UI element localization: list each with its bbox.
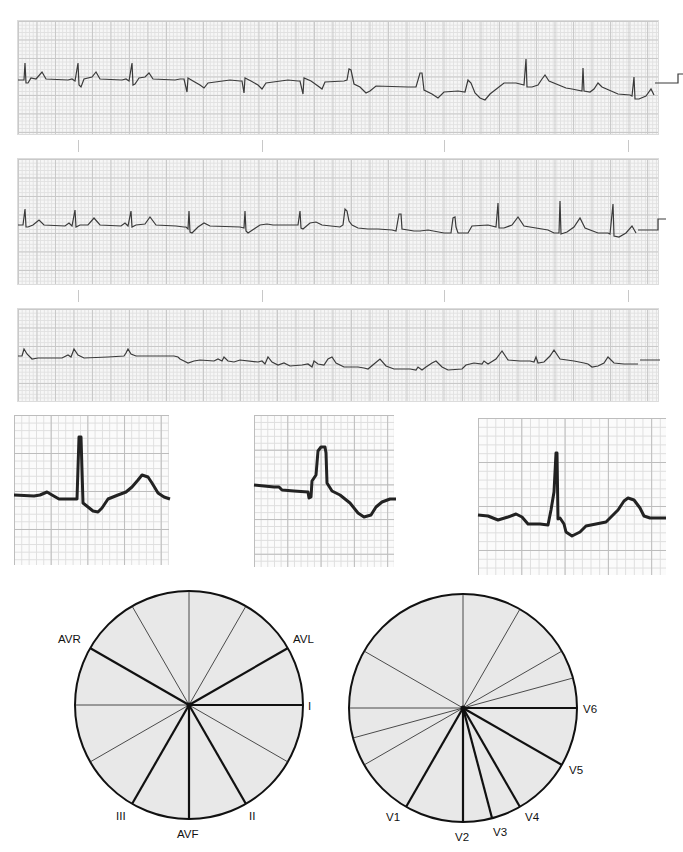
strip-marker: [262, 140, 263, 152]
label-iii: III: [116, 810, 126, 822]
ecg-complex-inset-1: [14, 415, 169, 565]
label-ii: II: [249, 810, 255, 822]
ecg-trace-strip-2: [18, 159, 658, 284]
detail-inset-2: [254, 415, 394, 567]
strip-marker: [78, 140, 79, 152]
strip-marker: [628, 290, 629, 302]
strip-marker: [78, 290, 79, 302]
label-v1: V1: [386, 811, 400, 823]
label-v2: V2: [455, 831, 469, 843]
lead-axis-diagrams: AVR AVL I III AVF II V6 V5 V4 V3 V2 V1: [0, 575, 683, 852]
rhythm-strip-3: [17, 308, 659, 402]
detail-inset-1: [14, 415, 169, 565]
ecg-trace-strip-3: [18, 309, 658, 401]
label-v4: V4: [525, 811, 540, 823]
frontal-plane-circle: AVR AVL I III AVF II: [58, 591, 314, 840]
detail-inset-3: [478, 418, 666, 575]
label-avr: AVR: [58, 633, 81, 645]
horizontal-plane-circle: V6 V5 V4 V3 V2 V1: [349, 594, 597, 843]
strip-marker: [444, 290, 445, 302]
strip-marker: [262, 290, 263, 302]
label-v3: V3: [493, 826, 507, 838]
label-i: I: [308, 700, 311, 712]
label-avl: AVL: [293, 633, 314, 645]
label-avf: AVF: [177, 828, 199, 840]
ecg-complex-inset-3: [478, 418, 666, 575]
ecg-trace-strip-1: [18, 21, 658, 134]
rhythm-strip-1: [17, 20, 659, 135]
strip-marker: [444, 140, 445, 152]
label-v6: V6: [583, 703, 597, 715]
rhythm-strip-2: [17, 158, 659, 285]
ecg-complex-inset-2: [254, 415, 394, 567]
label-v5: V5: [569, 764, 583, 776]
strip-marker: [628, 140, 629, 152]
